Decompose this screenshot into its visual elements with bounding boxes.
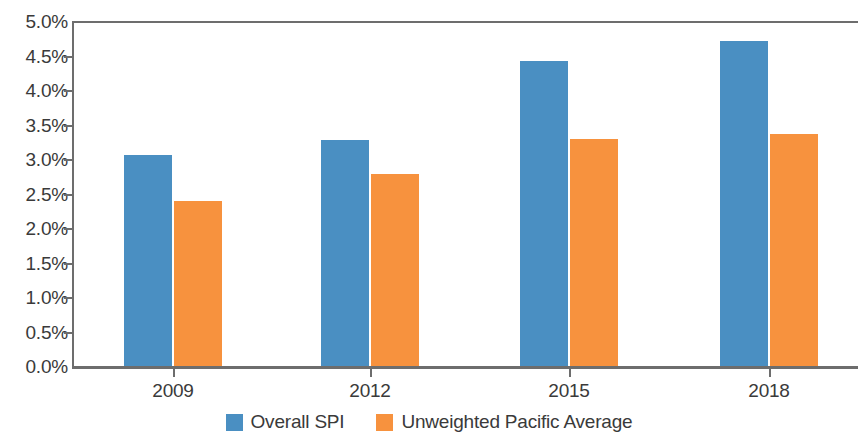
- bar-2018-overall-spi: [720, 41, 768, 367]
- y-axis-tick-label: 3.5%: [25, 113, 68, 139]
- y-axis-tick-mark: [64, 90, 72, 92]
- x-axis-tick-mark: [173, 369, 175, 377]
- plot-area: [74, 22, 858, 367]
- bar-2018-unweighted-pacific-average: [770, 134, 818, 367]
- y-axis-tick-label: 2.0%: [25, 216, 68, 242]
- legend-item[interactable]: Overall SPI: [226, 410, 345, 434]
- y-axis-tick-mark: [64, 125, 72, 127]
- y-axis-tick-mark: [64, 228, 72, 230]
- y-axis-tick-mark: [64, 194, 72, 196]
- bar-2009-unweighted-pacific-average: [174, 201, 222, 367]
- x-axis-tick-mark: [370, 369, 372, 377]
- y-axis-tick-label: 1.0%: [25, 285, 68, 311]
- y-axis-tick-label: 4.5%: [25, 44, 68, 70]
- legend-item-label: Unweighted Pacific Average: [401, 410, 632, 434]
- bar-2015-unweighted-pacific-average: [570, 139, 618, 367]
- legend-item[interactable]: Unweighted Pacific Average: [376, 410, 632, 434]
- y-axis-tick-label: 3.0%: [25, 147, 68, 173]
- bar-2012-unweighted-pacific-average: [371, 174, 419, 367]
- y-axis-tick-label: 5.0%: [25, 9, 68, 35]
- legend-swatch-orange-icon: [376, 414, 393, 431]
- legend-swatch-blue-icon: [226, 414, 243, 431]
- y-axis-tick-mark: [64, 56, 72, 58]
- y-axis-tick-mark: [64, 297, 72, 299]
- x-axis-line: [72, 366, 858, 369]
- chart-legend: Overall SPIUnweighted Pacific Average: [0, 410, 858, 434]
- y-axis-tick-label: 2.5%: [25, 182, 68, 208]
- y-axis-tick-label: 0.0%: [25, 354, 68, 380]
- x-axis-tick-mark: [569, 369, 571, 377]
- y-axis-tick-mark: [64, 332, 72, 334]
- x-axis-tick-label: 2012: [310, 378, 430, 404]
- x-axis-tick-label: 2009: [113, 378, 233, 404]
- bar-chart: 5.0%4.5%4.0%3.5%3.0%2.5%2.0%1.5%1.0%0.5%…: [0, 0, 858, 440]
- x-axis-tick-mark: [769, 369, 771, 377]
- x-axis-tick-label: 2018: [709, 378, 829, 404]
- bar-2012-overall-spi: [321, 140, 369, 367]
- x-axis-tick-label: 2015: [509, 378, 629, 404]
- y-axis-tick-label: 1.5%: [25, 251, 68, 277]
- legend-item-label: Overall SPI: [251, 410, 345, 434]
- y-axis-tick-label: 0.5%: [25, 320, 68, 346]
- bar-2015-overall-spi: [520, 61, 568, 367]
- y-axis-tick-mark: [64, 159, 72, 161]
- bar-2009-overall-spi: [124, 155, 172, 367]
- y-axis-tick-label: 4.0%: [25, 78, 68, 104]
- y-axis-tick-mark: [64, 263, 72, 265]
